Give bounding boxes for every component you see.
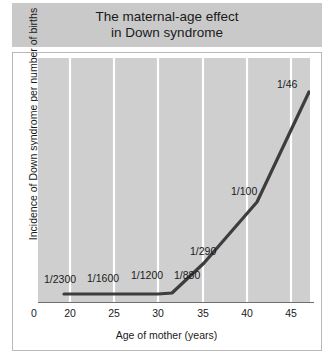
incidence-line bbox=[64, 92, 309, 294]
point-label-1200: 1/1200 bbox=[131, 269, 163, 281]
plot-area bbox=[38, 58, 310, 302]
x-tick-45: 45 bbox=[285, 307, 297, 319]
x-tick-25: 25 bbox=[108, 307, 120, 319]
chart-title: The maternal-age effect in Down syndrome bbox=[95, 9, 238, 41]
point-label-880: 1/880 bbox=[174, 269, 200, 281]
point-label-290: 1/290 bbox=[190, 245, 216, 257]
origin-label: 0 bbox=[31, 307, 37, 319]
x-axis-line bbox=[38, 302, 314, 303]
x-tick-30: 30 bbox=[152, 307, 164, 319]
point-label-46: 1/46 bbox=[277, 78, 297, 90]
point-label-100: 1/100 bbox=[231, 185, 257, 197]
gridlines bbox=[70, 58, 291, 302]
plot-svg bbox=[38, 58, 310, 302]
chart-page: The maternal-age effect in Down syndrome… bbox=[0, 0, 333, 362]
x-tick-40: 40 bbox=[241, 307, 253, 319]
x-tick-20: 20 bbox=[64, 307, 76, 319]
x-axis-title: Age of mother (years) bbox=[0, 329, 333, 341]
point-label-2300: 1/2300 bbox=[44, 273, 76, 285]
point-label-1600: 1/1600 bbox=[87, 272, 119, 284]
chart-title-band: The maternal-age effect in Down syndrome bbox=[12, 3, 322, 47]
x-tick-35: 35 bbox=[197, 307, 209, 319]
